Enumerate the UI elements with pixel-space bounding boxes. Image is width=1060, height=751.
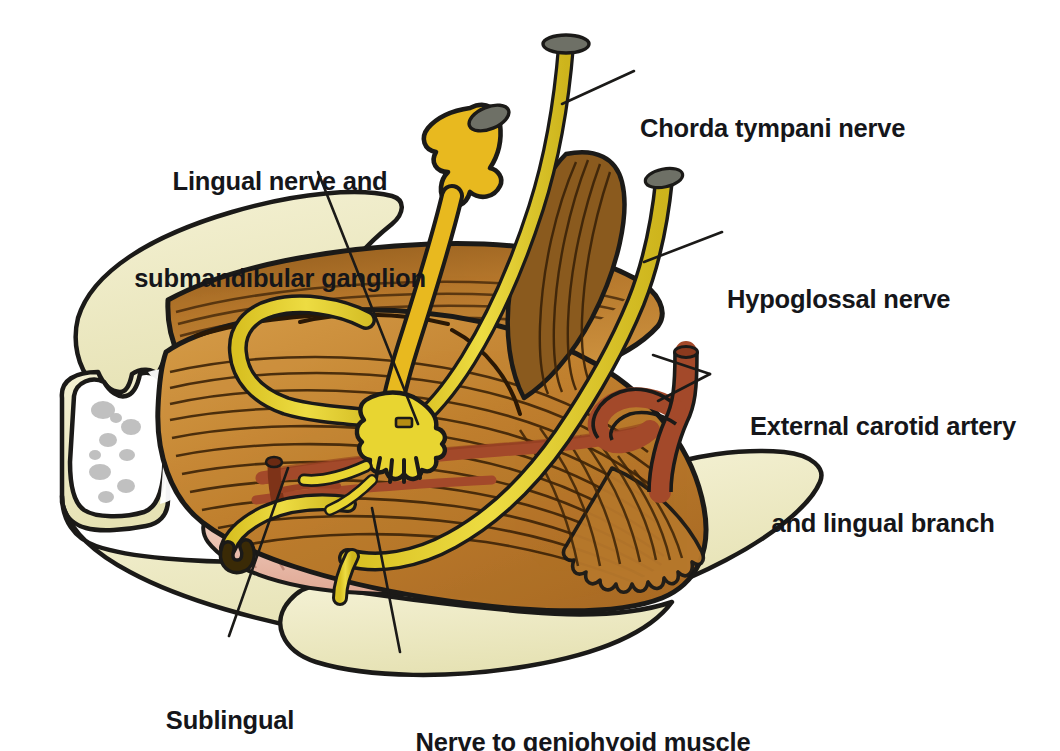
leader-chorda-tympani (562, 71, 634, 104)
label-line: Chorda tympani nerve (640, 112, 905, 144)
carotid-cut-end (675, 347, 698, 358)
label-line: and lingual branch (718, 507, 1048, 539)
label-line: Sublingual (96, 704, 364, 736)
label-sublingual-nerve-and-artery: Sublingual nerve and artery (96, 640, 364, 751)
label-external-carotid-artery-and-lingual-branch: External carotid artery and lingual bran… (718, 346, 1048, 603)
label-line: Lingual nerve and (100, 165, 460, 197)
anatomy-figure: Floor of mouth: nerves and arteries (0, 0, 1060, 751)
label-line: Hypoglossal nerve (727, 283, 950, 315)
label-lingual-nerve-and-submandibular-ganglion: Lingual nerve and submandibular ganglion (100, 101, 460, 358)
chorda-tympani-cut-end (543, 35, 589, 53)
label-chorda-tympani-nerve: Chorda tympani nerve (640, 48, 905, 209)
ganglion-inner-mark (396, 418, 412, 427)
label-line: submandibular ganglion (100, 262, 460, 294)
label-line: Nerve to geniohyoid muscle (398, 726, 768, 751)
label-nerve-to-geniohyoid-muscle: Nerve to geniohyoid muscle (398, 662, 768, 751)
label-line: External carotid artery (718, 410, 1048, 442)
